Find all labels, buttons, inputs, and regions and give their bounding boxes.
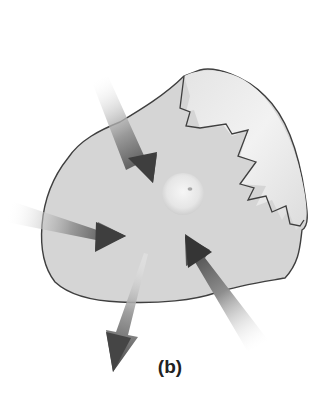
cell-diagram [0,0,330,406]
figure-caption: (b) [0,356,330,378]
nucleus [162,173,204,215]
nucleolus [188,187,193,191]
